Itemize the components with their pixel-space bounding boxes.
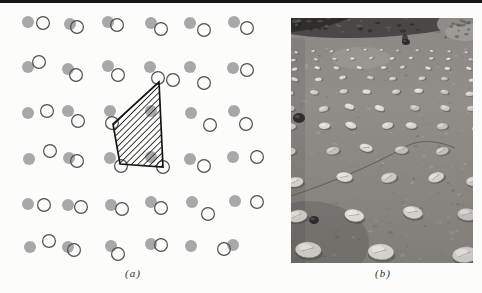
panel-b-caption-label: (b) [358,266,408,280]
figure-page: (a) (b) [0,0,482,293]
panel-a-caption-label: (a) [108,266,158,280]
field-photo-panel-b [291,18,473,263]
